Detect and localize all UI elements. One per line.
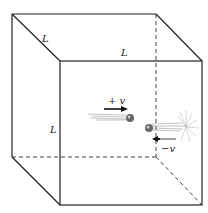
velocity-positive-label: + v [108,95,126,106]
edge-depth-label: L [41,33,49,44]
cube-diagram: L L L + v −v [0,0,208,213]
velocity-negative-label: −v [161,143,175,154]
edge-height-label: L [49,124,57,135]
molecule-rebounding [145,123,186,132]
molecule-incoming [88,114,134,122]
velocity-right-arrow-icon [104,106,128,112]
edge-top-label: L [120,47,128,58]
